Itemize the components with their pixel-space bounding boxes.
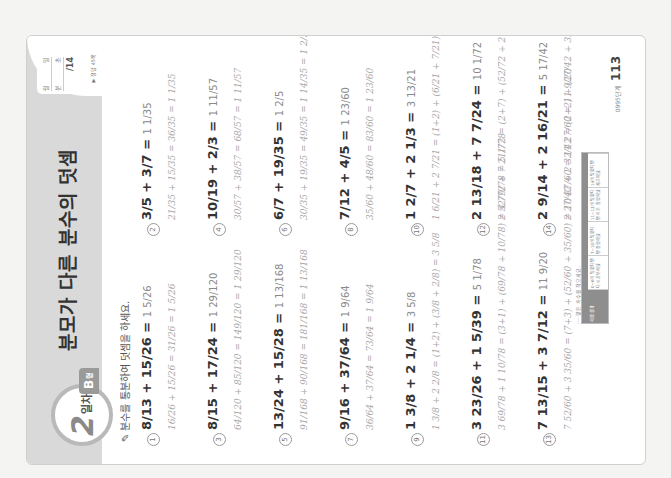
problem-expression: 3/5 + 3/7 = [139,139,154,220]
problem-expression: 8/15 + 17/24 = [205,322,220,430]
problem-expression: 13/24 + 15/28 = [271,313,286,430]
problem-number: 3 [213,433,226,446]
grading-cell: 0~6개 맞혔다면 다시 공부해요 [588,255,608,289]
page-number-value: 113 [609,56,623,81]
problem-expression: 7 13/15 + 3 7/12 = [535,295,550,430]
pencil-icon: ✎ [120,434,131,442]
problem-answer: 3 13/21 [406,69,417,107]
problem-answer: 1 13/168 [274,264,285,309]
problem-number: 7 [345,433,358,446]
instruction-text: 분수를 통분하여 덧셈을 하세요. [120,301,131,431]
problem-answer: 11 9/20 [538,252,549,290]
grading-result-label: 채점 결과 [588,289,608,323]
problem-item: 410/19 + 2/3 = 1 11/5730/57 + 38/57 = 68… [205,46,267,236]
problem-expression: 2 13/18 + 7 7/24 = [469,85,484,220]
footer-note: ···· 맞은 개수를 적으세요. [574,266,581,324]
handwritten-work: 64/120 + 85/120 = 149/120 = 1 29/120 [233,249,243,430]
problem-item: 101 2/7 + 2 1/3 = 3 13/211 6/21 + 2 7/21… [403,46,465,236]
grading-table: 채점 결과 0~6개 맞혔다면 다시 공부해요 7~10개 맞혔다면 잘했어요 … [581,152,609,324]
minute-label: 분 [53,85,62,91]
handwritten-work: 30/57 + 38/57 = 68/57 = 1 11/57 [233,68,243,220]
problem-number: 14 [543,223,556,236]
problem-answer: 5 1/78 [472,258,483,290]
problem-item: 38/15 + 17/24 = 1 29/12064/120 + 85/120 … [205,256,267,446]
handwritten-work: 21/35 + 15/35 = 36/35 = 1 1/35 [167,74,177,220]
day-unit: 일차 [78,394,94,414]
problem-expression: 10/19 + 2/3 = [205,121,220,220]
problem-answer: 1 29/120 [208,273,219,318]
month-label: 월 [41,85,50,91]
problem-answer: 1 5/26 [142,285,153,317]
problem-number: 8 [345,223,358,236]
grading-cell: 7~10개 맞혔다면 잘했어요 [588,221,608,255]
handwritten-work: 2 27/42 + 2 32/42 = (2+2) + (27/42 + 32/… [563,35,573,220]
score-total: /14 [66,57,75,91]
instruction: ✎분수를 통분하여 덧셈을 하세요. [117,301,132,442]
problem-number: 2 [147,223,160,236]
handwritten-work: 16/26 + 15/26 = 31/26 = 1 5/26 [167,284,177,430]
page-number: 0995단계113 [609,56,623,112]
second-label: 초 [53,57,62,63]
problem-item: 79/16 + 37/64 = 1 9/6436/64 + 37/64 = 73… [337,256,399,446]
handwritten-work: 1 3/8 + 2 2/8 = (1+2) + (3/8 + 2/8) = 3 … [431,232,441,430]
problem-number: 4 [213,223,226,236]
problem-item: 66/7 + 19/35 = 1 2/530/35 + 19/35 = 49/3… [271,46,333,236]
problem-item: 87/12 + 4/5 = 1 23/6035/60 + 48/60 = 83/… [337,46,399,236]
grading-cell: 11~13개 맞혔다면 아주 잘했어요 [588,187,608,221]
type-tab: B형 [79,368,99,394]
handwritten-work: 1 6/21 + 2 7/21 = (1+2) + (6/21 + 7/21) … [431,35,441,220]
problem-answer: 1 9/64 [340,285,351,317]
problem-number: 1 [147,433,160,446]
problem-expression: 1 2/7 + 2 1/3 = [403,112,418,220]
problem-expression: 8/13 + 15/26 = [139,322,154,430]
problem-expression: 9/16 + 37/64 = [337,322,352,430]
problem-answer: 1 11/57 [208,78,219,116]
problem-number: 13 [543,433,556,446]
handwritten-work: 35/60 + 48/60 = 83/60 = 1 23/60 [365,68,375,220]
answer-reference: ▶ 정답 45쪽 [89,54,96,82]
problem-expression: 7/12 + 4/5 = [337,130,352,220]
day-number: 2 [65,415,100,436]
grading-cell: 14개 맞혔다면 최고예요 [588,153,608,187]
problem-item: 122 13/18 + 7 7/24 = 10 1/722 52/72 + 7 … [469,46,531,236]
problem-item: 513/24 + 15/28 = 1 13/16891/168 + 90/168… [271,256,333,446]
problem-item: 18/13 + 15/26 = 1 5/2616/26 + 15/26 = 31… [139,256,201,446]
problem-expression: 2 9/14 + 2 16/21 = [535,85,550,220]
problem-number: 5 [279,433,292,446]
problem-expression: 1 3/8 + 2 1/4 = [403,322,418,430]
score-box: 월일 분초 /14 [37,54,83,94]
handwritten-work: 91/168 + 90/168 = 181/168 = 1 13/168 [299,249,309,430]
problem-expression: 3 23/26 + 1 5/39 = [469,295,484,430]
book-code: 0995단계 [614,85,621,112]
day-label: 일 [41,57,50,63]
problem-number: 12 [477,223,490,236]
problem-item: 113 23/26 + 1 5/39 = 5 1/783 69/78 + 1 1… [469,256,531,446]
problem-answer: 5 17/42 [538,42,549,80]
handwritten-work: 30/35 + 19/35 = 49/35 = 1 14/35 = 1 2/5 [299,35,309,220]
problem-number: 6 [279,223,292,236]
problem-answer: 1 1/35 [142,102,153,134]
type-suffix: 형 [84,373,94,379]
handwritten-work: 2 52/72 + 7 21/72 = (2+7) + (52/72 + 21/… [497,35,507,220]
problem-answer: 3 5/8 [406,292,417,318]
problem-number: 9 [411,433,424,446]
type-label: B [82,380,96,389]
problem-answer: 10 1/72 [472,42,483,80]
problem-item: 91 3/8 + 2 1/4 = 3 5/81 3/8 + 2 2/8 = (1… [403,256,465,446]
problem-number: 11 [477,433,490,446]
problem-expression: 6/7 + 19/35 = [271,121,286,220]
handwritten-work: 36/64 + 37/64 = 73/64 = 1 9/64 [365,284,375,430]
problem-item: 23/5 + 3/7 = 1 1/3521/35 + 15/35 = 36/35… [139,46,201,236]
worksheet-page: 분모가 다른 분수의 덧셈 월일 분초 /14 ▶ 정답 45쪽 2 일차 B형… [26,35,646,465]
problem-answer: 1 23/60 [340,87,351,125]
problem-answer: 1 2/5 [274,91,285,117]
problem-number: 10 [411,223,424,236]
